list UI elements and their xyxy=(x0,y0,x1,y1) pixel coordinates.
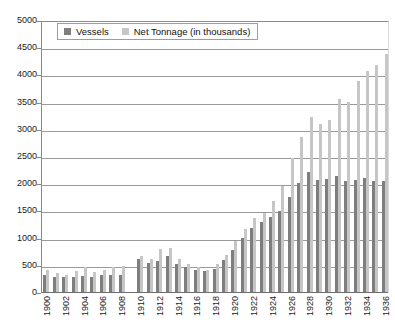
bar-tonnage xyxy=(328,120,331,293)
y-axis-tick-label: 1000 xyxy=(3,234,37,243)
bar-group xyxy=(184,21,193,293)
bar-tonnage xyxy=(357,81,360,293)
bar-tonnage xyxy=(310,117,313,293)
x-axis: 1900190219041906190819101912191419161918… xyxy=(41,296,389,335)
chart-legend: Vessels Net Tonnage (in thousands) xyxy=(57,23,258,40)
y-axis-tick xyxy=(36,157,41,158)
plot-area xyxy=(41,21,389,293)
legend-swatch-icon-vessels xyxy=(64,28,71,35)
bar-tonnage xyxy=(187,264,190,293)
bars-layer xyxy=(42,22,388,293)
bar-tonnage xyxy=(300,137,303,293)
bar-group xyxy=(260,21,269,293)
bar-group xyxy=(109,21,118,293)
bar-group xyxy=(213,21,222,293)
bar-group xyxy=(325,21,334,293)
x-axis-tick-label: 1912 xyxy=(155,296,165,316)
y-axis-tick-label: 1500 xyxy=(3,206,37,215)
bar-group xyxy=(137,21,146,293)
bar-tonnage xyxy=(93,272,96,293)
bar-tonnage xyxy=(112,267,115,293)
y-axis-tick-label: 2500 xyxy=(3,152,37,161)
x-axis-tick-label: 1908 xyxy=(117,296,127,316)
bar-tonnage xyxy=(347,102,350,293)
legend-item-net-tonnage: Net Tonnage (in thousands) xyxy=(122,26,251,37)
bar-tonnage xyxy=(65,275,68,293)
bar-group xyxy=(354,21,363,293)
y-axis-tick-label: 0 xyxy=(3,288,37,297)
x-axis-tick-label: 1904 xyxy=(80,296,90,316)
x-axis-tick-label: 1906 xyxy=(98,296,108,316)
bar-group xyxy=(119,21,128,293)
bar-tonnage xyxy=(169,248,172,293)
legend-label-net-tonnage: Net Tonnage (in thousands) xyxy=(134,26,251,37)
bar-group xyxy=(194,21,203,293)
bar-group xyxy=(344,21,353,293)
x-axis-tick-label: 1918 xyxy=(211,296,221,316)
bar-tonnage xyxy=(178,259,181,293)
bar-chart: 0500100015002000250030003500400045005000… xyxy=(0,0,395,335)
bar-group xyxy=(53,21,62,293)
bar-group xyxy=(175,21,184,293)
y-axis-tick-label: 5000 xyxy=(3,16,37,25)
y-axis-tick xyxy=(36,75,41,76)
bar-group xyxy=(250,21,259,293)
bar-tonnage xyxy=(253,218,256,293)
bar-group xyxy=(372,21,381,293)
bar-tonnage xyxy=(206,270,209,293)
bar-group xyxy=(241,21,250,293)
x-axis-tick-label: 1920 xyxy=(230,296,240,316)
bar-group xyxy=(316,21,325,293)
bar-group xyxy=(222,21,231,293)
bar-group xyxy=(288,21,297,293)
bar-group xyxy=(62,21,71,293)
y-axis-tick-label: 3500 xyxy=(3,98,37,107)
bar-group xyxy=(307,21,316,293)
y-axis-tick xyxy=(36,266,41,267)
bar-tonnage xyxy=(319,124,322,293)
bar-tonnage xyxy=(281,186,284,293)
y-axis-tick xyxy=(36,293,41,294)
bar-tonnage xyxy=(216,264,219,293)
x-axis-tick-label: 1914 xyxy=(174,296,184,316)
bar-tonnage xyxy=(75,271,78,293)
bar-tonnage xyxy=(234,241,237,293)
y-axis-tick xyxy=(36,211,41,212)
bar-tonnage xyxy=(122,266,125,293)
bar-tonnage xyxy=(140,256,143,293)
x-axis-tick-label: 1916 xyxy=(192,296,202,316)
bar-group xyxy=(278,21,287,293)
bar-tonnage xyxy=(291,158,294,293)
x-axis-line xyxy=(42,292,388,293)
bar-group xyxy=(156,21,165,293)
bar-tonnage xyxy=(375,65,378,293)
bar-tonnage xyxy=(150,259,153,293)
x-axis-tick-label: 1924 xyxy=(268,296,278,316)
bar-tonnage xyxy=(56,273,59,293)
x-axis-tick-label: 1922 xyxy=(249,296,259,316)
bar-tonnage xyxy=(385,54,388,293)
legend-item-vessels: Vessels xyxy=(64,26,109,37)
y-axis-tick xyxy=(36,48,41,49)
bar-tonnage xyxy=(84,267,87,293)
x-axis-tick-label: 1928 xyxy=(305,296,315,316)
y-axis-tick xyxy=(36,103,41,104)
bar-tonnage xyxy=(225,255,228,293)
y-axis-tick xyxy=(36,130,41,131)
x-axis-tick-label: 1900 xyxy=(42,296,52,316)
y-axis-tick xyxy=(36,184,41,185)
bar-tonnage xyxy=(272,201,275,293)
bar-group xyxy=(297,21,306,293)
bar-group xyxy=(147,21,156,293)
x-axis-tick-label: 1902 xyxy=(61,296,71,316)
bar-group xyxy=(269,21,278,293)
x-axis-tick-label: 1936 xyxy=(381,296,391,316)
bar-group xyxy=(100,21,109,293)
bar-group xyxy=(43,21,52,293)
x-axis-tick-label: 1934 xyxy=(362,296,372,316)
x-axis-tick-label: 1926 xyxy=(287,296,297,316)
y-axis-tick-label: 4500 xyxy=(3,43,37,52)
legend-swatch-icon-net-tonnage xyxy=(122,28,129,35)
y-axis-tick xyxy=(36,21,41,22)
y-axis-tick xyxy=(36,239,41,240)
